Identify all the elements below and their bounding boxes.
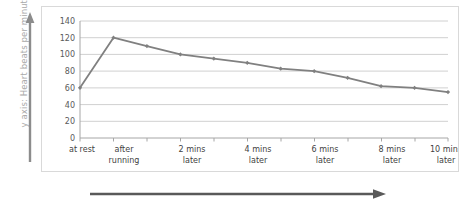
series-line-heart-rate [80, 38, 448, 92]
chart-plot-area: 140 120 100 80 60 40 20 0 [41, 6, 459, 172]
data-point [346, 76, 350, 80]
svg-text:0: 0 [70, 134, 75, 143]
x-tick-label-4-line2: later [316, 156, 335, 165]
data-point [446, 90, 450, 94]
data-point [312, 69, 316, 73]
data-point [145, 44, 149, 48]
svg-text:100: 100 [60, 50, 75, 59]
x-tick-label-6-line2: later [437, 156, 456, 165]
gridlines [80, 21, 448, 121]
x-tick-label-2-line1: 2 mins [179, 145, 206, 154]
x-tick-label-3-line2: later [249, 156, 268, 165]
y-tick-labels: 140 120 100 80 60 40 20 0 [60, 17, 75, 143]
chart-page: y axis: Heart beats per minute [0, 0, 464, 212]
svg-text:120: 120 [60, 34, 75, 43]
data-point [245, 61, 249, 65]
data-point [178, 52, 182, 56]
x-tick-label-2-line2: later [183, 156, 202, 165]
svg-text:20: 20 [65, 117, 75, 126]
data-point [212, 57, 216, 61]
x-tick-label-5-line2: later [383, 156, 402, 165]
x-tick-label-1-line1: after [115, 145, 135, 154]
x-tick-label-0-line1: at rest [69, 145, 95, 154]
x-tick-label-3-line1: 4 mins [245, 145, 272, 154]
x-tick-label-5-line1: 8 mins [379, 145, 406, 154]
y-axis-arrow-icon [24, 10, 36, 165]
data-point [412, 86, 416, 90]
x-axis-annotation [88, 186, 388, 202]
x-tick-label-4-line1: 6 mins [312, 145, 339, 154]
line-chart-svg: 140 120 100 80 60 40 20 0 [42, 7, 458, 171]
svg-text:140: 140 [60, 17, 75, 26]
x-axis-ticks [80, 138, 448, 142]
data-point [279, 67, 283, 71]
x-tick-label-6-line1: 10 mins [430, 145, 458, 154]
y-axis-annotation: y axis: Heart beats per minute [0, 0, 36, 168]
svg-text:60: 60 [65, 84, 75, 93]
x-axis-arrow-icon [88, 186, 388, 202]
x-tick-label-1-line2: running [109, 156, 140, 165]
svg-text:40: 40 [65, 101, 75, 110]
x-tick-labels: at rest after running 2 mins later 4 min… [69, 145, 458, 165]
svg-text:80: 80 [65, 67, 75, 76]
